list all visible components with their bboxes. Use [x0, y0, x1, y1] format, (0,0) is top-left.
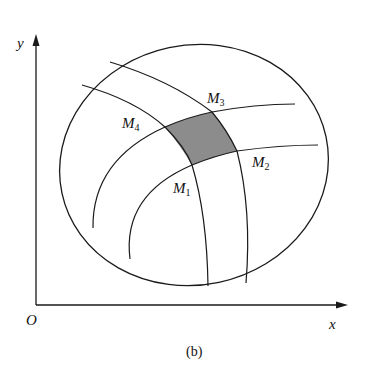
y-axis-arrow-icon: [33, 34, 40, 46]
region-boundary-ellipse: [37, 20, 351, 311]
arc-lower-horizontal: [129, 145, 318, 259]
origin-label: O: [26, 313, 37, 328]
x-axis-label: x: [329, 317, 336, 332]
point-label-m2: M2: [252, 155, 270, 172]
point-label-m1: M1: [173, 181, 191, 198]
point-label-m4: M4: [122, 116, 140, 133]
point-label-m3: M3: [207, 91, 225, 108]
figure-caption: (b): [186, 345, 202, 359]
arc-outer-vertical: [110, 62, 248, 283]
x-axis-arrow-icon: [336, 302, 348, 309]
y-axis-label: y: [17, 36, 24, 51]
